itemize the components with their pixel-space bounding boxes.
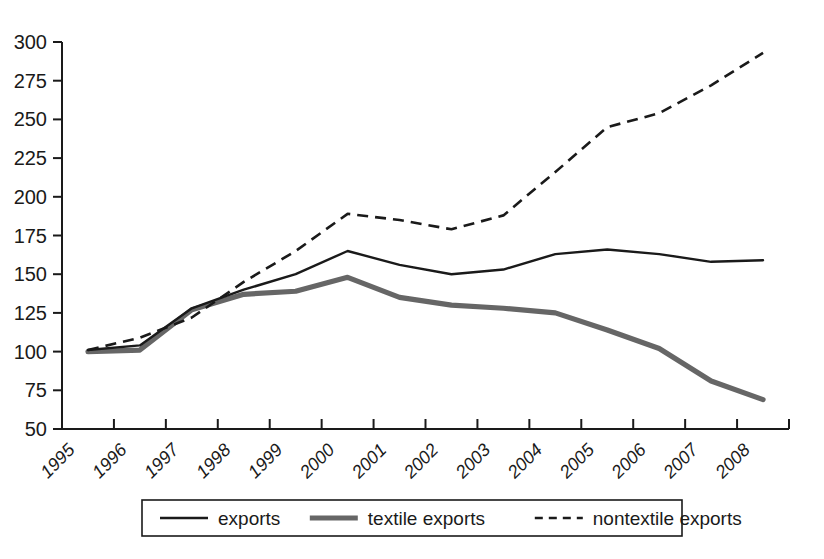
y-tick-label: 250 <box>14 108 47 130</box>
y-axis: 5075100125150175200225250275300 <box>14 31 62 440</box>
y-tick-label: 300 <box>14 31 47 53</box>
y-tick-label: 150 <box>14 263 47 285</box>
series-line-textile-exports <box>88 277 763 399</box>
x-tick-label: 2004 <box>503 440 546 483</box>
series-lines <box>88 53 763 400</box>
chart-canvas: 5075100125150175200225250275300 19951996… <box>0 0 824 559</box>
x-axis: 1995199619971998199920002001200220032004… <box>36 419 789 483</box>
x-tick-label: 2008 <box>711 440 754 483</box>
legend-label: textile exports <box>368 508 485 529</box>
x-tick-label: 2007 <box>659 439 703 483</box>
x-tick-label: 2003 <box>451 440 494 483</box>
x-tick-label: 2006 <box>607 439 651 483</box>
x-tick-label: 1998 <box>192 440 234 482</box>
y-tick-label: 200 <box>14 186 47 208</box>
x-tick-label: 2000 <box>295 440 338 483</box>
y-tick-label: 225 <box>14 147 47 169</box>
chart-legend: exportstextile exportsnontextile exports <box>142 500 742 536</box>
x-tick-label: 2001 <box>347 440 390 483</box>
x-tick-label: 1999 <box>244 440 286 482</box>
x-tick-label: 2005 <box>555 439 599 483</box>
line-chart: 5075100125150175200225250275300 19951996… <box>0 0 824 559</box>
y-tick-label: 75 <box>25 379 47 401</box>
x-tick-label: 1997 <box>140 439 183 482</box>
series-line-nontextile-exports <box>88 53 763 350</box>
x-tick-label: 2002 <box>399 440 442 483</box>
y-tick-label: 100 <box>14 341 47 363</box>
y-tick-label: 175 <box>14 225 47 247</box>
y-tick-label: 275 <box>14 70 47 92</box>
y-tick-label: 125 <box>14 302 47 324</box>
x-tick-label: 1995 <box>36 439 79 482</box>
x-tick-label: 1996 <box>88 439 131 482</box>
y-tick-label: 50 <box>25 418 47 440</box>
legend-label: exports <box>218 508 280 529</box>
legend-label: nontextile exports <box>593 508 742 529</box>
